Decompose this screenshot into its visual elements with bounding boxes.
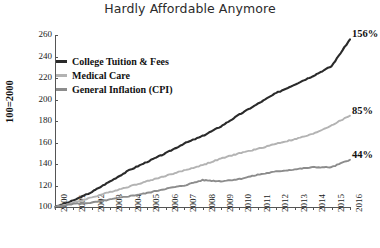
y-tick-mark-180 [55, 121, 58, 122]
series-line-2 [55, 160, 350, 207]
legend-swatch-icon [56, 88, 67, 91]
chart-legend: College Tuition & FeesMedical CareGenera… [56, 54, 173, 96]
y-tick-mark-220 [55, 78, 58, 79]
plot-area [0, 0, 380, 248]
legend-item-0[interactable]: College Tuition & Fees [56, 54, 173, 68]
legend-label: College Tuition & Fees [72, 56, 169, 67]
y-tick-mark-200 [55, 100, 58, 101]
y-tick-mark-120 [55, 186, 58, 187]
end-label-1: 85% [352, 105, 373, 116]
legend-item-2[interactable]: General Inflation (CPI) [56, 82, 173, 96]
chart-container: Hardly Affordable Anymore 100=2000 10012… [0, 0, 380, 248]
series-line-1 [55, 116, 350, 208]
y-tick-mark-100 [55, 207, 58, 208]
y-tick-mark-240 [55, 57, 58, 58]
y-tick-mark-260 [55, 35, 58, 36]
legend-item-1[interactable]: Medical Care [56, 68, 173, 82]
y-tick-mark-160 [55, 143, 58, 144]
legend-label: General Inflation (CPI) [72, 84, 173, 95]
y-tick-mark-140 [55, 164, 58, 165]
legend-swatch-icon [56, 74, 67, 77]
legend-label: Medical Care [72, 70, 130, 81]
end-label-2: 44% [352, 149, 373, 160]
legend-swatch-icon [56, 60, 67, 63]
end-label-0: 156% [352, 28, 378, 39]
